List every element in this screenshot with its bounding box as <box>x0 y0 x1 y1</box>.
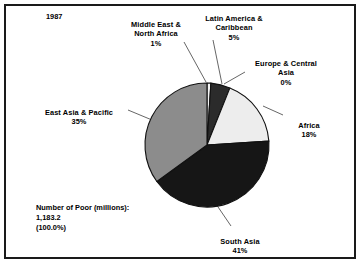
pie-label-africa: Africa 18% <box>284 112 334 149</box>
pie-label-name: Middle East & North Africa <box>131 20 181 38</box>
pie-label-name: East Asia & Pacific <box>45 108 113 117</box>
pie-label-middle-east-north-africa: Middle East & North Africa 1% <box>120 11 192 57</box>
pie-label-europe-central-asia: Europe & Central Asia 0% <box>246 50 326 96</box>
leader-line-africa <box>263 106 283 115</box>
summary-line-percent: (100.0%) <box>36 223 129 233</box>
pie-label-name: Europe & Central Asia <box>255 59 317 77</box>
summary-line-value: 1,183.2 <box>36 213 129 223</box>
leader-line-eca <box>224 72 245 84</box>
leader-line-eap <box>128 110 152 120</box>
pie-label-value: 18% <box>284 130 334 139</box>
pie-label-value: 0% <box>246 78 326 87</box>
summary-block: Number of Poor (millions): 1,183.2 (100.… <box>36 203 129 234</box>
pie-label-name: South Asia <box>220 237 259 246</box>
pie-label-east-asia-pacific: East Asia & Pacific 35% <box>30 99 128 136</box>
pie-label-name: Latin America & Caribbean <box>205 14 263 32</box>
pie-label-latin-america-caribbean: Latin America & Caribbean 5% <box>196 5 272 51</box>
pie-slices <box>145 83 269 207</box>
chart-screenshot: 1987 Middle East & North Afr <box>0 0 362 265</box>
pie-label-value: 1% <box>120 39 192 48</box>
leader-line-sa <box>216 204 231 226</box>
pie-label-name: Africa <box>298 121 320 130</box>
pie-label-value: 5% <box>196 33 272 42</box>
pie-label-value: 41% <box>204 246 276 255</box>
pie-label-value: 35% <box>30 117 128 126</box>
summary-line-title: Number of Poor (millions): <box>36 203 129 213</box>
pie-label-south-asia: South Asia 41% <box>204 228 276 265</box>
